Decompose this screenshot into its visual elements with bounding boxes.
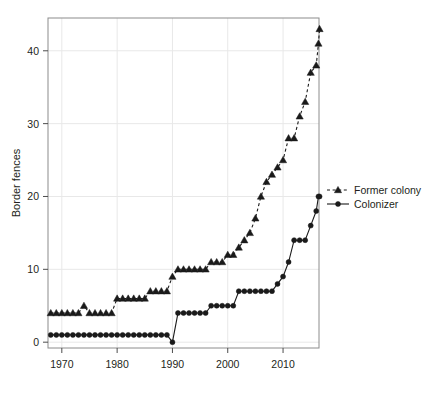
data-point-marker-circle [220,303,225,308]
data-point-marker-circle [314,209,319,214]
data-point-marker-circle [281,274,286,279]
data-point-marker-circle [264,289,269,294]
data-point-marker-circle [231,303,236,308]
y-tick-label: 20 [27,190,39,202]
data-point-marker-circle [175,311,180,316]
data-point-marker-circle [214,303,219,308]
border-fences-line-chart: 010203040 19701980199020002010 Border fe… [0,0,434,407]
data-point-marker-circle [70,332,75,337]
data-point-marker-circle [126,332,131,337]
y-tick-label: 10 [27,263,39,275]
data-point-marker-circle [131,332,136,337]
data-point-marker-circle [209,303,214,308]
data-point-marker-circle [253,289,258,294]
y-tick-label: 40 [27,45,39,57]
data-point-marker-circle [59,332,64,337]
legend-label: Former colony [354,184,422,196]
data-point-marker-circle [109,332,114,337]
data-point-marker-circle [54,332,59,337]
data-point-marker-circle [297,238,302,243]
data-point-marker-circle [198,311,203,316]
data-point-marker-circle [286,260,291,265]
data-point-marker-circle [120,332,125,337]
y-axis-label: Border fences [10,148,22,217]
data-point-marker-circle [153,332,158,337]
data-point-marker-circle [98,332,103,337]
data-point-marker-circle [65,332,70,337]
data-point-marker-circle [336,202,341,207]
data-point-marker-circle [164,332,169,337]
data-point-marker-circle [142,332,147,337]
data-point-marker-circle [203,311,208,316]
data-point-marker-circle [192,311,197,316]
data-point-marker-circle [317,194,322,199]
data-point-marker-circle [247,289,252,294]
x-tick-label: 1970 [50,358,74,370]
data-point-marker-circle [187,311,192,316]
data-point-marker-circle [303,238,308,243]
data-point-marker-circle [48,332,53,337]
data-point-marker-circle [76,332,81,337]
data-point-marker-circle [93,332,98,337]
data-point-marker-circle [181,311,186,316]
legend-label: Colonizer [354,198,399,210]
data-point-marker-circle [236,289,241,294]
chart-figure: 010203040 19701980199020002010 Border fe… [0,0,434,407]
y-tick-label: 30 [27,118,39,130]
x-tick-label: 1990 [161,358,185,370]
data-point-marker-circle [170,340,175,345]
data-point-marker-circle [275,281,280,286]
data-point-marker-circle [137,332,142,337]
data-point-marker-circle [87,332,92,337]
data-point-marker-circle [104,332,109,337]
y-tick-label: 0 [33,336,39,348]
data-point-marker-circle [269,289,274,294]
data-point-marker-circle [225,303,230,308]
data-point-marker-circle [148,332,153,337]
data-point-marker-circle [308,223,313,228]
x-tick-label: 2000 [216,358,240,370]
x-tick-label: 2010 [271,358,295,370]
data-point-marker-circle [81,332,86,337]
data-point-marker-circle [292,238,297,243]
data-point-marker-circle [159,332,164,337]
data-point-marker-circle [242,289,247,294]
x-tick-label: 1980 [105,358,129,370]
data-point-marker-circle [258,289,263,294]
data-point-marker-circle [115,332,120,337]
